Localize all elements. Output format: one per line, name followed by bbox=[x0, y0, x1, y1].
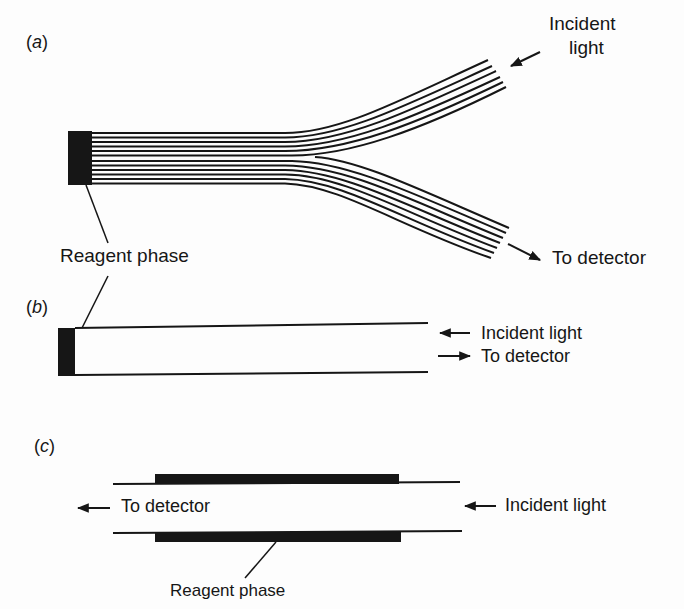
panel-b-incident-label: Incident light bbox=[481, 324, 582, 342]
panel-c-detector-label: To detector bbox=[121, 497, 210, 515]
panel-b-detector-label: To detector bbox=[481, 347, 570, 365]
panel-a-incident-label-line1: Incident bbox=[549, 14, 616, 33]
panel-c-reagent-leader bbox=[245, 542, 276, 578]
panel-b-drawing bbox=[58, 323, 470, 376]
diagram-canvas bbox=[0, 0, 684, 609]
panel-c-reagent-bottom bbox=[155, 532, 401, 542]
panel-a-fibers-lower bbox=[92, 157, 509, 258]
panel-c-reagent-label: Reagent phase bbox=[170, 582, 285, 599]
panel-a-detector-label: To detector bbox=[552, 248, 646, 267]
panel-a-incident-label-line2: light bbox=[569, 38, 604, 57]
panel-b-reagent-leader bbox=[82, 276, 108, 328]
panel-a-detector-arrow bbox=[508, 244, 540, 260]
panel-c-reagent-top bbox=[155, 474, 399, 484]
panel-a-reagent-leader bbox=[86, 185, 108, 243]
shared-reagent-label: Reagent phase bbox=[60, 246, 189, 265]
panel-b-fiber-bottom bbox=[75, 372, 428, 375]
panel-b-tag: (b) bbox=[26, 298, 48, 316]
panel-b-fiber-top bbox=[75, 323, 428, 328]
panel-a-drawing bbox=[68, 52, 540, 260]
panel-c-drawing bbox=[78, 474, 496, 578]
panel-a-fibers-upper bbox=[92, 60, 506, 156]
panel-a-tag: (a) bbox=[26, 33, 48, 51]
panel-c-incident-label: Incident light bbox=[505, 496, 606, 514]
panel-b-reagent-block bbox=[58, 328, 75, 376]
panel-c-tag: (c) bbox=[34, 437, 55, 455]
panel-a-reagent-block bbox=[68, 131, 92, 185]
panel-a-incident-arrow bbox=[511, 52, 540, 66]
